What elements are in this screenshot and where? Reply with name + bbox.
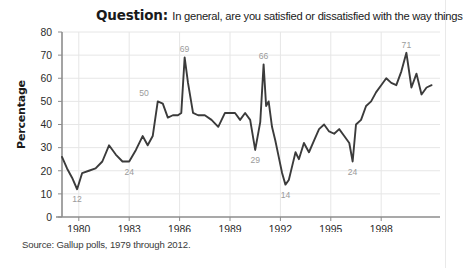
point-label: 24 (348, 167, 358, 177)
line-chart: 01020304050607080 1980198319861989199219… (0, 24, 455, 232)
y-tick-label: 60 (40, 73, 52, 84)
x-tick-label: 1998 (370, 224, 393, 232)
y-tick-label: 40 (40, 119, 52, 130)
data-series (62, 53, 432, 189)
x-tick-label: 1980 (67, 224, 90, 232)
x-tick-label: 1983 (118, 224, 141, 232)
x-tick-label: 1995 (319, 224, 342, 232)
y-tick-label: 30 (40, 142, 52, 153)
y-tick-label: 20 (40, 166, 52, 177)
y-tick-label: 70 (40, 50, 52, 61)
point-label: 50 (139, 88, 149, 98)
point-label: 24 (124, 167, 134, 177)
chart-title-text: In general, are you satisfied or dissati… (172, 10, 462, 22)
data-point-labels: 122450692966142471 (72, 40, 411, 204)
source-note: Source: Gallup polls, 1979 through 2012. (22, 239, 190, 250)
x-tick-label: 1986 (168, 224, 191, 232)
x-tick-label: 1989 (218, 224, 241, 232)
point-label: 69 (180, 44, 190, 54)
x-axis-tick-labels: 1980198319861989199219951998 (67, 217, 393, 232)
y-tick-label: 0 (46, 212, 52, 223)
point-label: 66 (259, 51, 269, 61)
y-tick-label: 50 (40, 96, 52, 107)
chart-title-lead: Question: (96, 7, 168, 23)
chart-title: Question: In general, are you satisfied … (96, 6, 446, 24)
point-label: 71 (402, 40, 412, 50)
horizontal-gridlines (62, 32, 440, 194)
y-tick-label: 10 (40, 189, 52, 200)
x-tick-label: 1992 (269, 224, 292, 232)
point-label: 14 (281, 190, 291, 200)
y-tick-label: 80 (40, 27, 52, 38)
series-line (62, 53, 432, 189)
point-label: 29 (250, 155, 260, 165)
point-label: 12 (72, 194, 82, 204)
y-axis-tick-labels: 01020304050607080 (40, 27, 62, 223)
chart-canvas: 01020304050607080 1980198319861989199219… (0, 24, 455, 232)
